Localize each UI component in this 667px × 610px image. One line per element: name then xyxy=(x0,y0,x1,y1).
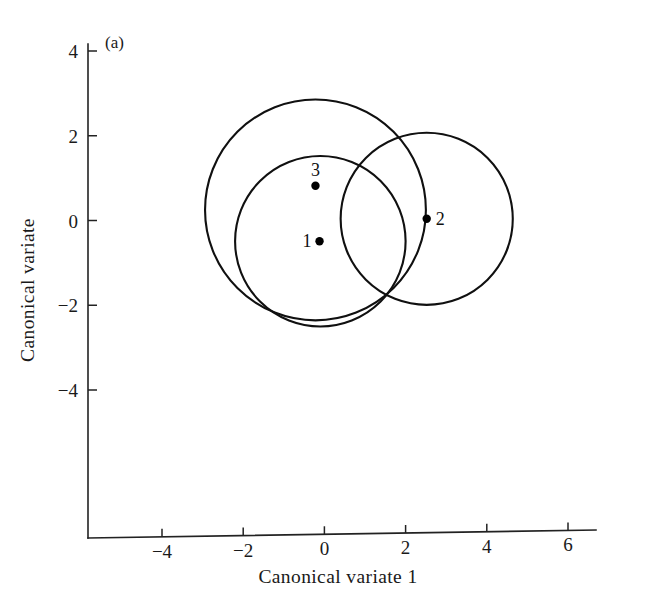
x-tick-label: −2 xyxy=(233,540,253,561)
figure-container: −4−20246 −4−2024 123 (a) Canonical varia… xyxy=(0,0,667,610)
y-tick-label: −2 xyxy=(58,295,78,316)
x-tick-label: 2 xyxy=(401,537,411,558)
confidence-region-circles xyxy=(205,99,513,326)
data-point-1 xyxy=(315,237,323,245)
y-tick-label: −4 xyxy=(58,380,79,401)
x-axis-line xyxy=(88,530,596,538)
data-point-label-2: 2 xyxy=(436,209,445,229)
y-axis-ticks: −4−2024 xyxy=(58,41,97,401)
canonical-variate-scatter-plot: −4−20246 −4−2024 123 (a) Canonical varia… xyxy=(0,0,667,610)
data-point-label-1: 1 xyxy=(303,231,312,251)
y-tick-label: 0 xyxy=(69,211,79,232)
panel-label: (a) xyxy=(105,33,124,52)
data-point-3 xyxy=(311,182,319,190)
data-point-2 xyxy=(423,215,431,223)
x-tick-label: 4 xyxy=(482,536,492,557)
x-tick-label: −4 xyxy=(152,541,173,562)
y-tick-label: 4 xyxy=(69,41,79,62)
x-tick-label: 6 xyxy=(563,534,573,555)
x-axis-title: Canonical variate 1 xyxy=(258,566,417,587)
x-axis-ticks: −4−20246 xyxy=(152,522,573,561)
axes xyxy=(88,44,596,538)
data-point-label-3: 3 xyxy=(311,160,320,180)
y-axis-title: Canonical variate xyxy=(17,218,38,362)
y-tick-label: 2 xyxy=(69,126,79,147)
x-tick-label: 0 xyxy=(320,538,330,559)
